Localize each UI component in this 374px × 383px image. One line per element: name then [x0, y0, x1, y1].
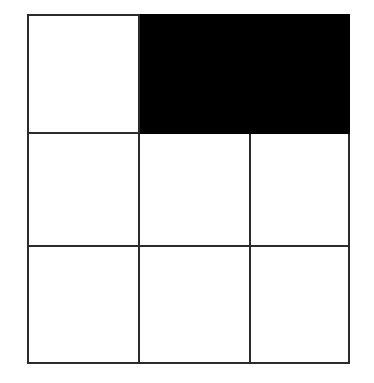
grid-row-2 [28, 133, 349, 246]
grid-row-1 [28, 15, 349, 133]
grid-cell-r2c2[interactable] [139, 133, 250, 246]
grid-cell-r2c1[interactable] [28, 133, 139, 246]
grid-cell-r2c3[interactable] [250, 133, 349, 246]
grid-cell-r3c1[interactable] [28, 246, 139, 363]
grid-cell-r1c1[interactable] [28, 15, 139, 133]
grid-cell-r3c2[interactable] [139, 246, 250, 363]
grid-cell-r3c3[interactable] [250, 246, 349, 363]
grid-row-3 [28, 246, 349, 363]
grid-diagram [27, 14, 350, 364]
grid-cell-r1c2-c3-shaded[interactable] [139, 15, 349, 133]
figure-root [0, 0, 374, 383]
